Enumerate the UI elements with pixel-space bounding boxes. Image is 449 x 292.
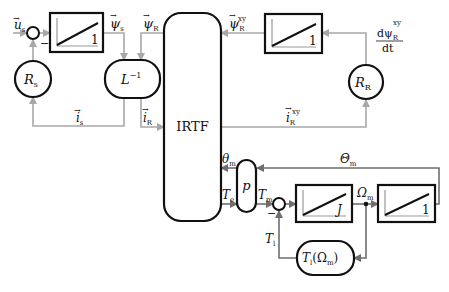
stator-summing-junction: [27, 27, 39, 39]
Tm-label: Tm: [258, 188, 273, 204]
stator-integrator-gain: 1: [91, 33, 99, 47]
stator-integrator-block: 1: [50, 13, 103, 52]
svg-text:Ωm: Ωm: [356, 186, 374, 202]
psi-R-xy-label: → ψR xy: [229, 11, 246, 33]
Tl-line: [279, 211, 297, 258]
psi-R-label: → ψR: [143, 11, 159, 33]
dpsi-dt-label: dψR xy dt: [376, 19, 403, 55]
block-diagram: − 1 Rs L−1 IRTF 1 RR p − J: [0, 0, 449, 292]
Theta-m-label: Θm: [340, 152, 357, 168]
svg-text:dt: dt: [382, 42, 394, 55]
theta-m-label: θm: [222, 152, 236, 168]
irtf-label: IRTF: [176, 119, 208, 134]
svg-text:Te: Te: [222, 188, 234, 204]
iR-xy-label: → iR xy: [285, 104, 300, 127]
svg-text:θm: θm: [222, 152, 236, 168]
Te-label: Te: [222, 188, 234, 204]
svg-text:Tm: Tm: [258, 188, 273, 204]
psi-s-line: [103, 33, 124, 60]
svg-text:xy: xy: [292, 108, 300, 116]
mech-minus-sign: −: [267, 207, 276, 220]
svg-text:ψs: ψs: [110, 16, 124, 33]
stator-minus-sign: −: [40, 37, 49, 50]
rotor-integrator-block: 1: [265, 14, 322, 53]
svg-text:xy: xy: [393, 19, 401, 27]
rotor-integrator-gain: 1: [309, 34, 317, 48]
svg-text:xy: xy: [238, 15, 246, 23]
is-label: → is: [74, 106, 84, 127]
us-label: → us: [13, 14, 26, 34]
svg-text:us: us: [14, 18, 26, 34]
position-integrator-gain: 1: [422, 203, 430, 217]
Tl-label: Tl: [265, 232, 276, 248]
svg-text:ψR: ψR: [143, 16, 159, 33]
load-torque-label: Tl(Ωm): [302, 251, 338, 267]
branch-dot: [364, 202, 369, 207]
psi-R-line: [141, 33, 164, 60]
Omega-m-label: Ωm: [356, 186, 374, 202]
pole-pairs-label: p: [242, 178, 251, 193]
psi-s-label: → ψs: [110, 11, 124, 33]
irtf-block: [164, 13, 221, 221]
position-integrator-block: 1: [378, 185, 435, 222]
dpsi-dt-line: [322, 33, 366, 65]
svg-text:Tl: Tl: [265, 232, 276, 248]
svg-text:dψR: dψR: [377, 27, 399, 42]
iR-label: → iR: [142, 105, 153, 127]
Omega-to-load-line: [354, 204, 366, 258]
inertia-integrator-block: J: [296, 185, 352, 222]
svg-text:Θm: Θm: [340, 152, 357, 168]
